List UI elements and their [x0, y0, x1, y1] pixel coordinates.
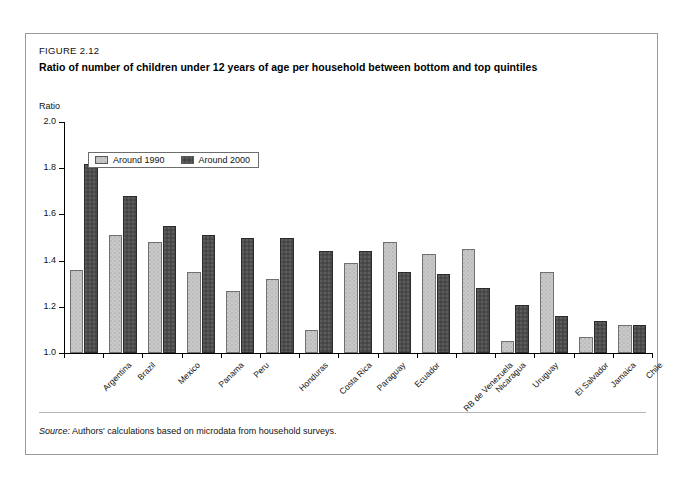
x-axis-category-label: Costa Rica: [337, 360, 373, 396]
bar-1990: [70, 270, 84, 353]
source-keyword: Source:: [39, 426, 70, 436]
bar-1990: [540, 272, 554, 353]
bar-1990: [422, 254, 436, 353]
legend-swatch-2000-icon: [181, 156, 194, 164]
x-axis-tick: [142, 353, 143, 358]
bar-2000: [123, 196, 137, 353]
x-axis-category-label: Brazil: [135, 360, 157, 382]
bar-1990: [618, 325, 632, 353]
y-axis-tick: [59, 261, 64, 262]
legend-label-1990: Around 1990: [113, 155, 165, 165]
x-axis-category-label: Argentina: [100, 360, 133, 393]
x-axis-category-label: Ecuador: [412, 360, 441, 389]
y-axis-tick-label: 1.6: [32, 208, 56, 218]
figure-title: Ratio of number of children under 12 yea…: [39, 61, 537, 73]
bar-2000: [359, 251, 373, 353]
y-axis-tick: [59, 214, 64, 215]
bar-1990: [266, 279, 280, 353]
x-axis-category-label: Mexico: [176, 360, 202, 386]
x-axis-category-label: Chile: [644, 360, 665, 381]
x-axis-tick: [338, 353, 339, 358]
y-axis-line: [64, 122, 65, 353]
figure-panel: FIGURE 2.12 Ratio of number of children …: [25, 33, 658, 455]
x-axis-category-label: Jamaica: [608, 360, 637, 389]
x-axis-tick: [378, 353, 379, 358]
y-axis-tick: [59, 122, 64, 123]
bar-2000: [594, 321, 608, 353]
bar-1990: [148, 242, 162, 353]
bar-2000: [515, 305, 529, 354]
bar-2000: [398, 272, 412, 353]
bar-1990: [579, 337, 593, 353]
source-divider: [39, 412, 646, 413]
x-axis-tick: [299, 353, 300, 358]
x-axis-tick: [103, 353, 104, 358]
bar-2000: [437, 274, 451, 353]
bar-2000: [633, 325, 647, 353]
source-text: Authors' calculations based on microdata…: [72, 426, 336, 436]
bar-2000: [476, 288, 490, 353]
x-axis-tick: [534, 353, 535, 358]
x-axis-category-label: Panama: [216, 360, 245, 389]
figure-number-label: FIGURE 2.12: [39, 45, 99, 56]
bar-2000: [319, 251, 333, 353]
legend-item-around-1990: Around 1990: [95, 155, 165, 165]
x-axis-category-label: Uruguay: [530, 360, 560, 390]
x-axis-tick: [260, 353, 261, 358]
y-axis-tick-label: 1.4: [32, 255, 56, 265]
bar-1990: [344, 263, 358, 353]
bar-2000: [241, 238, 255, 354]
bar-2000: [555, 316, 569, 353]
x-axis-tick: [652, 353, 653, 358]
bar-1990: [462, 249, 476, 353]
x-axis-line: [64, 353, 652, 354]
x-axis-tick: [417, 353, 418, 358]
x-axis-category-label: Honduras: [296, 360, 329, 393]
y-axis-tick: [59, 168, 64, 169]
x-axis-tick: [64, 353, 65, 358]
x-axis-category-label: El Salvador: [573, 360, 611, 398]
x-axis-tick: [456, 353, 457, 358]
x-axis-tick: [574, 353, 575, 358]
bar-1990: [109, 235, 123, 353]
bar-1990: [501, 341, 515, 353]
bar-1990: [187, 272, 201, 353]
legend-item-around-2000: Around 2000: [181, 155, 251, 165]
legend-swatch-1990-icon: [95, 156, 108, 164]
bar-2000: [280, 238, 294, 354]
x-axis-tick: [613, 353, 614, 358]
bar-1990: [383, 242, 397, 353]
y-axis-tick-label: 1.2: [32, 301, 56, 311]
y-axis-tick-label: 1.0: [32, 347, 56, 357]
chart-legend: Around 1990 Around 2000: [88, 152, 259, 168]
x-axis-tick: [221, 353, 222, 358]
y-axis-tick: [59, 307, 64, 308]
bar-1990: [226, 291, 240, 353]
bar-2000: [84, 164, 98, 353]
y-axis-tick-label: 1.8: [32, 162, 56, 172]
x-axis-category-label: Peru: [252, 360, 272, 380]
y-axis-tick-label: 2.0: [32, 116, 56, 126]
y-axis-title: Ratio: [39, 101, 60, 111]
bar-2000: [202, 235, 216, 353]
legend-label-2000: Around 2000: [199, 155, 251, 165]
bar-1990: [305, 330, 319, 353]
x-axis-tick: [495, 353, 496, 358]
bar-2000: [163, 226, 177, 353]
x-axis-category-label: Paraguay: [375, 360, 408, 393]
x-axis-tick: [182, 353, 183, 358]
source-note: Source: Authors' calculations based on m…: [39, 426, 336, 436]
